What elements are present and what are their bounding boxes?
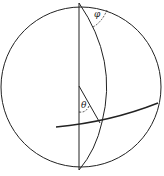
phi-label: φ — [94, 9, 101, 19]
sphere-outline — [1, 7, 161, 167]
theta-label: θ — [81, 100, 87, 110]
sphere-diagram: φ θ — [0, 0, 164, 176]
latitude-curve — [56, 103, 158, 127]
meridian-arc — [79, 3, 107, 170]
